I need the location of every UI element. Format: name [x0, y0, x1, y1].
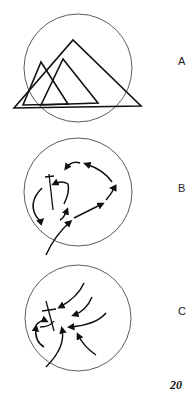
figure-a-label: A	[178, 55, 185, 67]
triangles-diagram	[0, 0, 150, 130]
figure-a	[0, 0, 150, 130]
loop-arrows-diagram	[0, 130, 150, 260]
figure-b	[0, 130, 150, 260]
figure-b-label: B	[178, 182, 185, 194]
figure-c	[0, 255, 150, 385]
figure-c-label: C	[178, 305, 186, 317]
converging-arrows-diagram	[0, 255, 150, 385]
page-number: 20	[170, 378, 182, 393]
